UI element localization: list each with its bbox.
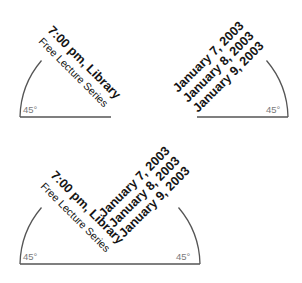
panel-top-left: 45° 7:00 pm, Library Free Lecture Series [20, 23, 124, 117]
left-angle-label: 45° [23, 251, 38, 262]
panel-bottom-combined: 45° 45° 7:00 pm, Library Free Lecture Se… [20, 144, 200, 264]
angle-label: 45° [23, 104, 38, 115]
rotated-text-diagram: 45° 7:00 pm, Library Free Lecture Series… [0, 0, 302, 283]
panel-top-right: 45° January 7, 2003 January 8, 2003 Janu… [170, 19, 288, 117]
right-angle-label: 45° [176, 251, 191, 262]
angle-label: 45° [266, 104, 281, 115]
